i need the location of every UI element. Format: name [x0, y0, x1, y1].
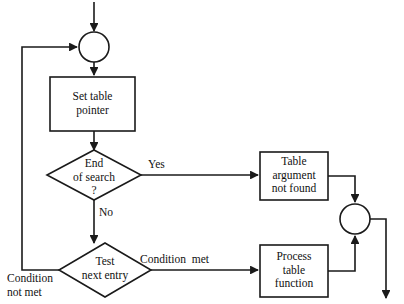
edge-label-no: No — [99, 206, 113, 220]
diamond-test-next-entry — [59, 243, 151, 297]
box-process-table-function — [260, 245, 328, 297]
edge-label-condition-not-met: Condition not met — [7, 272, 53, 299]
box-set-table-pointer — [50, 77, 135, 131]
box-table-argument-not-found — [260, 152, 328, 200]
edge-label-yes: Yes — [148, 158, 165, 172]
junction-circle-right — [340, 204, 370, 234]
edge-process-to-junction — [328, 236, 355, 271]
junction-circle-top — [79, 32, 109, 62]
edge-tablearg-to-junction — [328, 176, 355, 202]
exit-arrow-line — [370, 219, 386, 298]
diamond-end-of-search — [47, 150, 141, 200]
flowchart-diagram: Set table pointer End of search ? Test n… — [0, 0, 404, 304]
edge-label-condition-met: Condition met — [140, 253, 209, 267]
